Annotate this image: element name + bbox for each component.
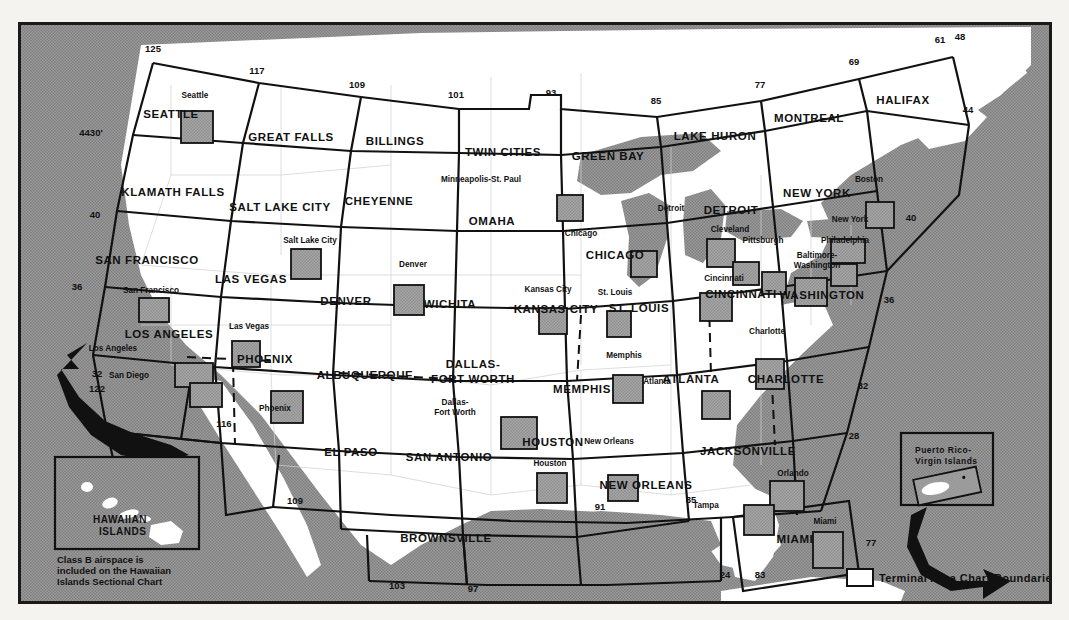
sectional-label-seattle: SEATTLE — [143, 108, 199, 120]
city-label-cleveland: Cleveland — [711, 225, 750, 234]
city-label-new-orleans: New Orleans — [584, 437, 634, 446]
city-label-salt-lake-city: Salt Lake City — [283, 236, 337, 245]
sectional-label-fort-worth: FORT WORTH — [431, 373, 515, 385]
sectional-label-houston: HOUSTON — [522, 436, 584, 448]
city-label-pittsburgh: Pittsburgh — [743, 236, 784, 245]
city-label-fort-worth: Fort Worth — [434, 408, 476, 417]
sectional-label-st-louis: ST. LOUIS — [609, 302, 669, 314]
longitude-label-61: 61 — [935, 34, 946, 45]
city-label-tampa: Tampa — [693, 501, 719, 510]
sectional-label-klamath-falls: KLAMATH FALLS — [121, 186, 224, 198]
city-label-cincinnati: Cincinnati — [704, 274, 744, 283]
longitude-label-125: 125 — [145, 43, 162, 54]
longitude-label-85: 85 — [651, 95, 662, 106]
city-label-san-diego: San Diego — [109, 371, 149, 380]
longitude-label-109: 109 — [287, 495, 303, 506]
sectional-label-denver: DENVER — [320, 295, 372, 307]
hawaii-title-line1: HAWAIIAN — [93, 514, 147, 525]
sectional-label-los-angeles: LOS ANGELES — [125, 328, 214, 340]
longitude-label-101: 101 — [448, 89, 465, 100]
sectional-label-billings: BILLINGS — [366, 135, 424, 147]
map-canvas: SEATTLEGREAT FALLSBILLINGSTWIN CITIESGRE… — [21, 25, 1049, 601]
longitude-label-103: 103 — [389, 580, 405, 591]
sectional-label-san-antonio: SAN ANTONIO — [406, 451, 492, 463]
latitude-label-4430': 4430' — [79, 127, 102, 138]
sectional-label-cincinnati: CINCINNATI — [705, 288, 777, 300]
sectional-label-wichita: WICHITA — [424, 298, 477, 310]
city-label-denver: Denver — [399, 260, 428, 269]
latitude-label-40: 40 — [906, 212, 917, 223]
hawaii-note-line3: Islands Sectional Chart — [57, 576, 163, 587]
city-label-miami: Miami — [813, 517, 836, 526]
longitude-label-83: 83 — [755, 569, 766, 580]
longitude-label-77: 77 — [866, 537, 877, 548]
latitude-label-28: 28 — [849, 430, 860, 441]
city-label-phoenix: Phoenix — [259, 404, 291, 413]
hawaii-note-line2: included on the Hawaiian — [57, 565, 171, 576]
sectional-label-memphis: MEMPHIS — [553, 383, 611, 395]
sectional-label-twin-cities: TWIN CITIES — [465, 146, 541, 158]
city-label-atlanta: Atlanta — [643, 377, 671, 386]
puerto-rico-title-line2: Virgin Islands — [915, 456, 978, 466]
sectional-label-las-vegas: LAS VEGAS — [215, 273, 287, 285]
sectional-label-chicago: CHICAGO — [586, 249, 645, 261]
sectional-label-great-falls: GREAT FALLS — [248, 131, 334, 143]
sectional-label-brownsville: BROWNSVILLE — [400, 532, 492, 544]
city-label-san-francisco: San Francisco — [123, 286, 179, 295]
screenshot-root: SEATTLEGREAT FALLSBILLINGSTWIN CITIESGRE… — [0, 0, 1069, 620]
sectional-label-miami: MIAMI — [777, 533, 814, 545]
sectional-label-detroit: DETROIT — [704, 204, 759, 216]
longitude-label-91: 91 — [595, 501, 606, 512]
city-label-charlotte: Charlotte — [749, 327, 785, 336]
latitude-label-36: 36 — [72, 281, 83, 292]
longitude-label-93: 93 — [546, 87, 557, 98]
sectional-chart-index-map: SEATTLEGREAT FALLSBILLINGSTWIN CITIESGRE… — [18, 22, 1052, 604]
city-label-chicago: Chicago — [565, 229, 597, 238]
latitude-label-32: 32 — [858, 380, 869, 391]
city-label-baltimore-: Baltimore- — [797, 251, 838, 260]
longitude-label-117: 117 — [249, 65, 264, 76]
city-label-las-vegas: Las Vegas — [229, 322, 269, 331]
city-label-orlando: Orlando — [777, 469, 808, 478]
city-label-washington: Washington — [794, 261, 841, 270]
city-label-memphis: Memphis — [606, 351, 642, 360]
city-label-seattle: Seattle — [182, 91, 209, 100]
city-label-kansas-city: Kansas City — [525, 285, 572, 294]
city-label-los-angeles: Los Angeles — [89, 344, 138, 353]
puerto-rico-title-line1: Puerto Rico- — [915, 445, 972, 455]
sectional-label-salt-lake-city: SALT LAKE CITY — [229, 201, 330, 213]
city-label-houston: Houston — [533, 459, 566, 468]
sectional-label-kansas-city: KANSAS CITY — [514, 303, 599, 315]
sectional-label-new-york: NEW YORK — [783, 187, 851, 199]
hawaii-note-line1: Class B airspace is — [57, 554, 144, 565]
hawaii-title-line2: ISLANDS — [99, 526, 146, 537]
legend-swatch — [847, 569, 873, 586]
latitude-label-32: 32 — [92, 368, 103, 379]
latitude-label-24: 24 — [720, 569, 731, 580]
longitude-label-97: 97 — [468, 583, 479, 594]
sectional-label-washington: WASHINGTON — [779, 289, 864, 301]
city-label-new-york: New York — [832, 215, 869, 224]
sectional-label-albuquerque: ALBUQUERQUE — [317, 369, 414, 381]
city-label-minneapolis-st-paul: Minneapolis-St. Paul — [441, 175, 521, 184]
city-label-st-louis: St. Louis — [598, 288, 633, 297]
longitude-label-77: 77 — [755, 79, 766, 90]
sectional-label-atlanta: ATLANTA — [663, 373, 720, 385]
latitude-label-40: 40 — [90, 209, 101, 220]
longitude-label-109: 109 — [349, 79, 365, 90]
sectional-label-charlotte: CHARLOTTE — [748, 373, 824, 385]
longitude-label-122: 122 — [89, 383, 105, 394]
sectional-label-cheyenne: CHEYENNE — [345, 195, 414, 207]
sectional-label-montreal: MONTREAL — [774, 112, 844, 124]
sectional-label-dallas-: DALLAS- — [446, 358, 501, 370]
latitude-label-48: 48 — [955, 31, 966, 42]
sectional-label-omaha: OMAHA — [469, 215, 515, 227]
sectional-label-new-orleans: NEW ORLEANS — [600, 479, 693, 491]
sectional-label-san-francisco: SAN FRANCISCO — [95, 254, 199, 266]
sectional-label-halifax: HALIFAX — [876, 94, 929, 106]
longitude-label-69: 69 — [849, 56, 860, 67]
longitude-label-116: 116 — [216, 418, 231, 429]
sectional-label-phoenix: PHOENIX — [237, 353, 293, 365]
legend-label: Terminal Area Chart Boundaries — [879, 572, 1049, 584]
city-label-dallas-: Dallas- — [442, 398, 469, 407]
